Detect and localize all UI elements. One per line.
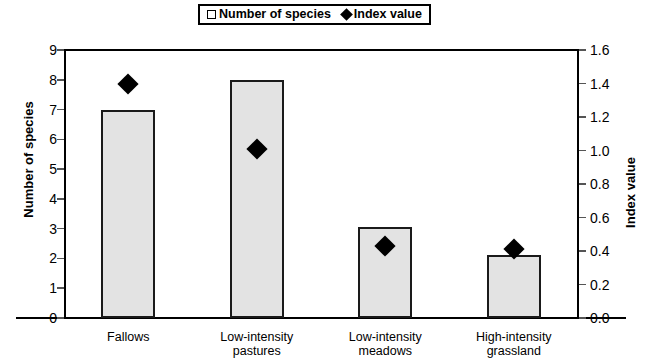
left-axis-tick-label: 4 — [49, 192, 57, 206]
category-label: High-intensity grassland — [450, 330, 579, 358]
marker-index-value — [118, 73, 139, 94]
left-axis-tick-label: 8 — [49, 73, 57, 87]
right-axis-tick — [579, 116, 586, 118]
legend-entry-index-value: Index value — [342, 8, 422, 21]
left-axis-tick-label: 2 — [49, 251, 57, 265]
left-axis-tick — [57, 228, 64, 230]
left-axis-tick-label: 9 — [49, 43, 57, 57]
right-axis-tick-label: 0.0 — [590, 311, 609, 325]
left-axis-tick — [57, 258, 64, 260]
right-axis-tick — [579, 183, 586, 185]
left-axis-tick-label: 3 — [49, 222, 57, 236]
category-label: Low-intensity meadows — [321, 330, 450, 358]
chart-root: Number of species Index value Number of … — [0, 0, 658, 360]
legend-entry-number-of-species: Number of species — [207, 8, 331, 21]
right-axis-tick-label: 1.4 — [590, 77, 609, 91]
right-axis-tick — [579, 49, 586, 51]
left-axis-tick-label: 1 — [49, 281, 57, 295]
right-axis-tick-label: 0.4 — [590, 244, 609, 258]
legend-label-index-value: Index value — [354, 8, 422, 21]
left-axis-tick-label: 0 — [49, 311, 57, 325]
left-axis-tick-label: 7 — [49, 103, 57, 117]
left-axis-tick — [57, 49, 64, 51]
category-label: Low-intensity pastures — [193, 330, 322, 358]
left-axis-tick — [57, 79, 64, 81]
left-axis-tick — [57, 317, 64, 319]
right-axis-title: Index value — [623, 123, 638, 263]
left-axis-tick-label: 5 — [49, 162, 57, 176]
top-axis-line — [64, 49, 579, 51]
bar-number-of-species — [230, 80, 284, 318]
left-axis-tick — [57, 198, 64, 200]
right-axis-tick-label: 1.6 — [590, 43, 609, 57]
left-axis-line — [64, 49, 66, 319]
right-axis-tick — [579, 150, 586, 152]
legend-label-number-of-species: Number of species — [219, 8, 331, 21]
right-axis-tick-label: 1.2 — [590, 110, 609, 124]
right-axis-tick — [579, 317, 586, 319]
right-axis-tick-label: 0.6 — [590, 211, 609, 225]
left-axis-tick-label: 6 — [49, 132, 57, 146]
bar-number-of-species — [487, 255, 541, 318]
category-label: Fallows — [64, 330, 193, 344]
right-axis-tick-label: 0.2 — [590, 278, 609, 292]
left-axis-title: Number of species — [21, 80, 36, 240]
right-axis-tick — [579, 217, 586, 219]
right-axis-tick — [579, 250, 586, 252]
right-axis-tick-label: 0.8 — [590, 177, 609, 191]
left-axis-tick — [57, 109, 64, 111]
bar-number-of-species — [101, 110, 155, 318]
left-axis-tick — [57, 139, 64, 141]
right-axis-tick-label: 1.0 — [590, 144, 609, 158]
right-axis-tick — [579, 83, 586, 85]
diamond-icon — [340, 8, 353, 21]
chart-legend: Number of species Index value — [198, 4, 431, 25]
right-axis-tick — [579, 284, 586, 286]
left-axis-tick — [57, 287, 64, 289]
left-axis-tick — [57, 168, 64, 170]
square-outline-icon — [207, 10, 216, 19]
